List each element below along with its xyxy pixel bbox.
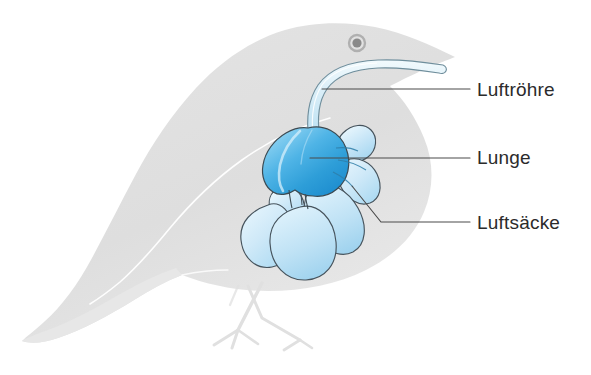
diagram-canvas xyxy=(0,0,591,375)
bird-eye xyxy=(348,34,367,53)
bird-respiratory-diagram: Luftröhre Lunge Luftsäcke xyxy=(0,0,591,375)
bird-legs xyxy=(214,283,312,350)
label-luftsaecke: Luftsäcke xyxy=(477,213,560,232)
label-luftroehre: Luftröhre xyxy=(477,80,555,99)
label-lunge: Lunge xyxy=(477,148,531,167)
bird-body-silhouette xyxy=(22,23,455,343)
air-sac-abdominal-center xyxy=(270,206,336,280)
